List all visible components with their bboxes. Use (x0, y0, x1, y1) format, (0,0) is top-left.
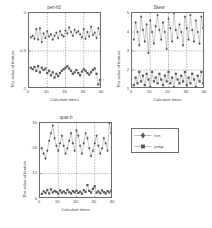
diamond-marker (68, 26, 70, 29)
square-marker (133, 84, 135, 86)
square-marker (95, 73, 97, 75)
diamond-marker (84, 132, 86, 135)
x-tick-label: 20 (69, 199, 83, 204)
square-marker (184, 71, 186, 73)
square-marker (32, 68, 34, 70)
square-marker (52, 71, 54, 73)
diamond-marker (70, 31, 72, 34)
square-marker (146, 73, 148, 75)
diamond-marker (43, 152, 45, 155)
square-marker (193, 78, 195, 80)
x-tick-label: 10 (39, 89, 53, 94)
chart-panel-skew: Skew The value of feature 5 4 3 2 1 (108, 2, 210, 114)
diamond-marker (74, 149, 76, 152)
diamond-marker (83, 142, 85, 145)
diamond-marker (187, 38, 189, 41)
diamond-marker (46, 149, 48, 152)
x-axis-label: Calculate times (131, 97, 204, 102)
diamond-marker (83, 27, 85, 30)
diamond-marker (72, 34, 74, 37)
diamond-marker (86, 137, 88, 140)
legend-item-jump[interactable]: jump (134, 141, 164, 151)
diamond-marker (75, 129, 77, 132)
square-marker (44, 67, 46, 69)
x-tick-label: 0 (21, 89, 35, 94)
diamond-marker (42, 32, 44, 35)
diamond-marker (145, 23, 147, 26)
diamond-marker (175, 29, 177, 32)
diamond-marker (61, 34, 63, 37)
legend-item-run[interactable]: run (134, 130, 160, 140)
diamond-marker (169, 27, 171, 30)
diamond-marker (63, 35, 65, 38)
diamond-marker (103, 137, 105, 140)
square-marker (46, 72, 48, 74)
square-marker (59, 189, 61, 191)
square-marker (37, 65, 39, 67)
legend-sample-run (134, 131, 152, 140)
plot-svg (132, 13, 204, 88)
diamond-marker (197, 31, 199, 34)
diamond-marker (61, 134, 63, 137)
diamond-marker (138, 44, 140, 47)
square-marker (90, 191, 92, 193)
diamond-marker (44, 157, 46, 160)
square-marker (66, 65, 68, 67)
square-marker (140, 80, 142, 82)
square-marker (166, 80, 168, 82)
square-marker (135, 77, 137, 79)
diamond-marker (110, 132, 112, 135)
legend-sample-jump (134, 142, 152, 151)
diamond-marker (166, 48, 168, 51)
y-axis-label: The value of feature (22, 161, 27, 198)
diamond-marker (77, 134, 79, 137)
diamond-marker (41, 147, 43, 150)
plot-svg (40, 123, 112, 198)
diamond-marker (106, 149, 108, 152)
square-marker (173, 86, 175, 88)
diamond-marker (41, 40, 43, 43)
square-marker (33, 66, 35, 68)
diamond-marker (90, 154, 92, 157)
diamond-marker (158, 29, 160, 32)
square-marker (81, 193, 83, 195)
x-tick-label: 0 (124, 89, 138, 94)
square-marker (57, 75, 59, 77)
diamond-marker (88, 147, 90, 150)
square-marker (99, 79, 101, 81)
square-marker (155, 77, 157, 79)
square-marker (88, 73, 90, 75)
diamond-marker (136, 31, 138, 34)
diamond-marker (57, 149, 59, 152)
diamond-marker (86, 31, 88, 34)
y-tick-label: 30 (23, 120, 37, 125)
diamond-marker (133, 38, 135, 41)
diamond-marker (182, 44, 184, 47)
square-marker (79, 191, 81, 193)
x-tick-label: 30 (87, 199, 101, 204)
diamond-marker (198, 42, 200, 45)
square-marker (182, 80, 184, 82)
x-tick-label: 40 (94, 89, 108, 94)
square-marker (81, 70, 83, 72)
square-marker (75, 69, 77, 71)
diamond-marker (171, 40, 173, 43)
diamond-marker (178, 23, 180, 26)
square-marker (187, 77, 189, 79)
plot-area (131, 12, 204, 88)
square-marker (160, 78, 162, 80)
square-marker (99, 192, 101, 194)
square-marker (41, 67, 43, 69)
diamond-marker (149, 19, 151, 22)
square-marker (178, 82, 180, 84)
square-marker (94, 67, 96, 69)
legend-label-run: run (154, 133, 160, 138)
square-marker (48, 70, 50, 72)
square-marker (85, 191, 87, 193)
square-marker (84, 70, 86, 72)
square-marker (156, 82, 158, 84)
diamond-marker (147, 51, 149, 54)
square-marker (175, 73, 177, 75)
square-marker (77, 72, 79, 74)
diamond-marker (90, 25, 92, 28)
